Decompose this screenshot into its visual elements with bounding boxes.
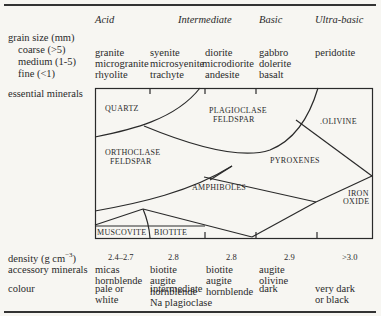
colour-acid-2: white: [95, 294, 118, 306]
region-orthoclase: ORTHOCLASE: [105, 148, 160, 157]
region-muscovite: MUSCOVITE: [97, 228, 146, 237]
density-label: density (g cm−3): [8, 249, 76, 265]
colour-intermediate: intermediate: [150, 283, 202, 295]
region-oxide: OXIDE: [343, 197, 369, 206]
density-basic: 2.9: [284, 251, 295, 263]
colour-basic: dark: [259, 283, 278, 295]
region-biotite: BIOTITE: [154, 228, 187, 237]
region-orthoclase-feldspar: FELDSPAR: [110, 157, 152, 166]
accessory-int2-3: hornblende: [206, 286, 253, 298]
density-acid: 2.4–2.7: [108, 251, 134, 263]
density-ultrabasic: >3.0: [342, 251, 357, 263]
region-amphiboles: AMPHIBOLES: [192, 183, 246, 192]
region-quartz: QUARTZ: [105, 104, 139, 113]
colour-ultrabasic-2: or black: [315, 294, 349, 306]
density-label-sup: −3: [65, 251, 72, 259]
density-intermediate-1: 2.8: [168, 251, 179, 263]
density-intermediate-2: 2.8: [226, 251, 237, 263]
accessory-minerals-label: accessory minerals: [8, 264, 88, 276]
bottom-rule: [4, 311, 376, 313]
region-plagioclase-feldspar: FELDSPAR: [213, 115, 255, 124]
density-label-text: density (g cm: [8, 253, 65, 264]
region-plagioclase: PLAGIOCLASE: [209, 106, 267, 115]
region-pyroxenes: PYROXENES: [270, 156, 320, 165]
density-label-end: ): [73, 253, 77, 264]
region-olivine: .OLIVINE: [320, 117, 357, 126]
accessory-int1-4: Na plagioclase: [150, 297, 212, 309]
colour-label: colour: [8, 283, 35, 295]
